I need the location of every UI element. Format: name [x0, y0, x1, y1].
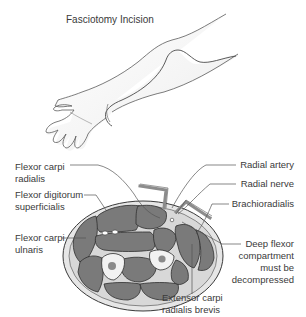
- label-flexor-carpi-ulnaris: Flexor carpi ulnaris: [15, 232, 65, 256]
- leader-fds: [84, 195, 106, 210]
- label-brachioradialis: Brachioradialis: [232, 198, 294, 210]
- label-radial-nerve: Radial nerve: [241, 178, 294, 190]
- label-line: decompressed: [232, 274, 294, 286]
- label-line: Flexor carpi: [15, 232, 65, 244]
- label-line: radialis: [15, 173, 65, 185]
- label-line: ulnaris: [15, 244, 65, 256]
- label-line: Deep flexor: [232, 238, 294, 250]
- label-line: Flexor digitorum: [15, 189, 83, 201]
- label-line: Extensor carpi: [162, 292, 223, 304]
- label-line: Flexor carpi: [15, 161, 65, 173]
- label-line: must be: [232, 262, 294, 274]
- leader-radial-artery: [172, 165, 236, 208]
- label-extensor-carpi-radialis-brevis: Extensor carpi radialis brevis: [162, 292, 223, 316]
- label-line: compartment: [232, 250, 294, 262]
- label-deep-flexor-compartment: Deep flexor compartment must be decompre…: [232, 238, 294, 286]
- label-line: radialis brevis: [162, 304, 223, 316]
- label-radial-artery: Radial artery: [240, 159, 294, 171]
- label-line: superficialis: [15, 201, 83, 213]
- label-flexor-carpi-radialis: Flexor carpi radialis: [15, 161, 65, 185]
- label-flexor-digitorum-superficialis: Flexor digitorum superficialis: [15, 189, 83, 213]
- muscle-fcr: [136, 205, 167, 229]
